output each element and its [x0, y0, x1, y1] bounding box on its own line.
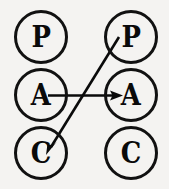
node-right-p-label: P [121, 22, 140, 52]
node-right-c-label: C [121, 138, 142, 168]
pac-diagram: P A C P A C [0, 0, 169, 189]
node-right-a-label: A [121, 80, 141, 110]
node-left-p-label: P [31, 22, 50, 52]
node-left-a: A [14, 68, 68, 122]
node-right-a: A [104, 68, 158, 122]
node-left-p: P [14, 10, 68, 64]
node-left-c: C [14, 126, 68, 180]
node-right-p: P [104, 10, 158, 64]
node-right-c: C [104, 126, 158, 180]
node-left-a-label: A [31, 80, 51, 110]
node-left-c-label: C [31, 138, 52, 168]
